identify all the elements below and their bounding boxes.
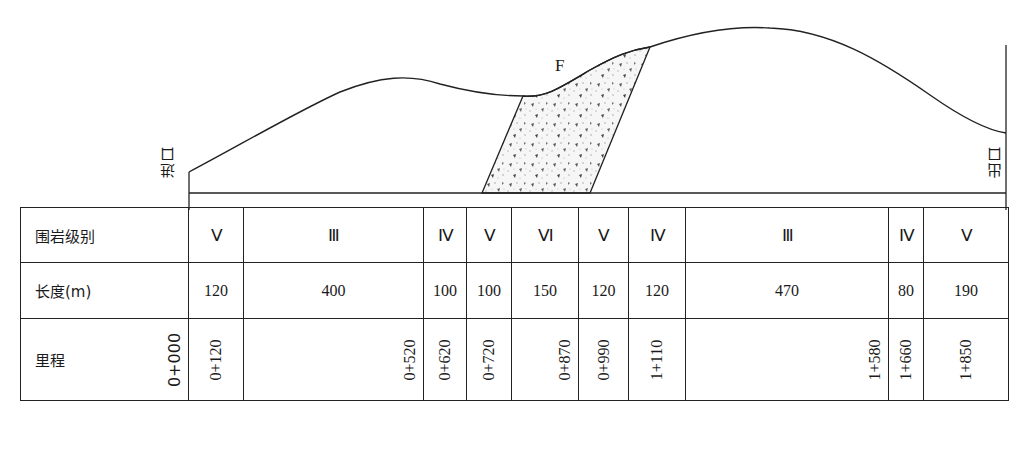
chainage-value: 1+580	[866, 339, 884, 380]
chainage-cell: 1+110	[629, 319, 686, 401]
chainage-value: 1+660	[897, 339, 915, 380]
chainage-cell: 1+580	[686, 319, 889, 401]
grade-cell: Ⅴ	[467, 208, 512, 263]
chainage-cell: 0+620	[424, 319, 467, 401]
grade-cell: Ⅳ	[424, 208, 467, 263]
chainage-cell: 1+850	[924, 319, 1009, 401]
grade-cell: Ⅴ	[189, 208, 244, 263]
grade-cell: Ⅳ	[889, 208, 924, 263]
length-cell: 100	[424, 263, 467, 319]
length-cell: 100	[467, 263, 512, 319]
length-cell: 190	[924, 263, 1009, 319]
length-row-header: 长度(m)	[21, 263, 189, 319]
tunnel-profile-drawing	[0, 0, 1027, 210]
chainage-row: 里程 0+000 0+120 0+520 0+620 0+720 0+870 0…	[21, 319, 1009, 401]
length-cell: 120	[629, 263, 686, 319]
chainage-value: 0+720	[480, 339, 498, 380]
start-chainage: 0+000	[165, 332, 184, 386]
entrance-label: 进口	[157, 146, 178, 178]
chainage-cell: 1+660	[889, 319, 924, 401]
grade-row: 围岩级别 Ⅴ Ⅲ Ⅳ Ⅴ Ⅵ Ⅴ Ⅳ Ⅲ Ⅳ Ⅴ	[21, 208, 1009, 263]
chainage-cell: 0+990	[579, 319, 629, 401]
chainage-value: 0+120	[207, 339, 225, 380]
chainage-value: 1+110	[648, 339, 666, 379]
length-cell: 470	[686, 263, 889, 319]
length-cell: 400	[244, 263, 424, 319]
chainage-header-label: 里程	[35, 352, 65, 370]
length-cell: 80	[889, 263, 924, 319]
grade-cell: Ⅴ	[579, 208, 629, 263]
length-row: 长度(m) 120 400 100 100 150 120 120 470 80…	[21, 263, 1009, 319]
length-cell: 150	[512, 263, 579, 319]
length-cell: 120	[579, 263, 629, 319]
chainage-value: 1+850	[957, 339, 975, 380]
grade-cell: Ⅳ	[629, 208, 686, 263]
exit-label: 出口	[984, 146, 1005, 178]
chainage-value: 0+520	[401, 339, 419, 380]
chainage-value: 0+990	[595, 339, 613, 380]
chainage-cell: 0+120	[189, 319, 244, 401]
chainage-cell: 0+720	[467, 319, 512, 401]
grade-cell: Ⅲ	[686, 208, 889, 263]
grade-row-header: 围岩级别	[21, 208, 189, 263]
grade-cell: Ⅴ	[924, 208, 1009, 263]
chainage-value: 0+620	[436, 339, 454, 380]
chainage-value: 0+870	[556, 339, 574, 380]
grade-cell: Ⅲ	[244, 208, 424, 263]
grade-cell: Ⅵ	[512, 208, 579, 263]
chainage-cell: 0+520	[244, 319, 424, 401]
fault-zone	[482, 47, 650, 193]
length-cell: 120	[189, 263, 244, 319]
chainage-row-header: 里程 0+000	[21, 319, 189, 401]
chainage-cell: 0+870	[512, 319, 579, 401]
fault-label: F	[555, 56, 564, 76]
rock-grade-table: 围岩级别 Ⅴ Ⅲ Ⅳ Ⅴ Ⅵ Ⅴ Ⅳ Ⅲ Ⅳ Ⅴ 长度(m) 120 400 1…	[20, 207, 1009, 401]
